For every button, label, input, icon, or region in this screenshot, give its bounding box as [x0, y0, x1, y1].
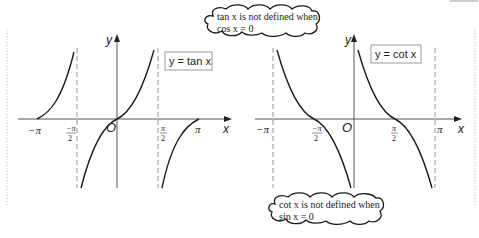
- cot-y-axis-label: y: [344, 33, 352, 47]
- tan-y-axis-arrow-icon: [114, 34, 120, 42]
- tan-tick-neg-half-pi-den: 2: [68, 134, 72, 143]
- cot-graph: −π −π 2 π 2 π O x y y = cot x: [255, 33, 465, 188]
- cot-tick-neg-half-pi-num: −π: [312, 124, 322, 133]
- cot-tick-neg-pi: −π: [256, 123, 269, 135]
- tan-callout-line2: cos x = 0: [217, 23, 253, 34]
- tan-y-axis-label: y: [105, 33, 113, 47]
- cot-x-axis-label: x: [457, 122, 465, 136]
- tan-undefined-callout: tan x is not defined when cos x = 0: [205, 5, 320, 37]
- cot-tick-neg-half-pi-den: 2: [314, 134, 318, 143]
- tan-tick-neg-pi: −π: [28, 124, 41, 136]
- cot-callout-line1: cot x is not defined when: [279, 199, 380, 210]
- cot-tick-half-pi-den: 2: [392, 134, 396, 143]
- cot-origin-label: O: [342, 120, 352, 135]
- tan-graph: −π −π 2 π 2 π O x y y = tan x: [18, 33, 232, 188]
- tan-equation-label: y = tan x: [169, 55, 211, 67]
- cot-undefined-callout: cot x is not defined when sin x = 0: [269, 193, 384, 225]
- cot-y-axis-arrow-icon: [351, 34, 357, 42]
- tan-callout-line1: tan x is not defined when: [217, 11, 318, 22]
- cot-tick-half-pi-num: π: [392, 124, 397, 133]
- tan-curve-right-branch: [162, 119, 199, 188]
- cot-equation-label: y = cot x: [375, 48, 417, 60]
- tan-tick-half-pi-den: 2: [161, 134, 165, 143]
- tan-curve-left-branch: [37, 52, 74, 119]
- tan-x-axis-label: x: [222, 122, 230, 136]
- tan-origin-label: O: [106, 120, 116, 135]
- cot-tick-pi: π: [437, 123, 443, 135]
- cot-callout-line2: sin x = 0: [279, 211, 314, 222]
- trig-graphs-diagram: −π −π 2 π 2 π O x y y = tan x −π −π 2 π: [0, 0, 479, 238]
- tan-tick-half-pi-num: π: [161, 124, 166, 133]
- tan-tick-neg-half-pi-num: −π: [66, 124, 76, 133]
- tan-tick-pi: π: [195, 123, 201, 135]
